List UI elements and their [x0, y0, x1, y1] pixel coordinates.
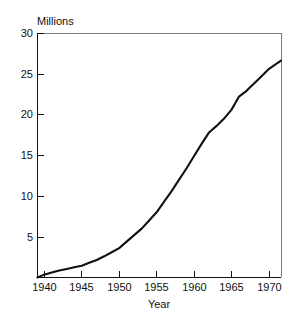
x-tick-label-1950: 1950 — [107, 281, 131, 293]
x-tick-label-1955: 1955 — [144, 281, 168, 293]
x-tick-label-1965: 1965 — [219, 281, 243, 293]
y-axis-title: Millions — [37, 15, 74, 27]
x-tick-label-1960: 1960 — [182, 281, 206, 293]
y-tick-label-5: 5 — [27, 231, 33, 243]
y-tick-label-30: 30 — [21, 27, 33, 39]
x-tick-label-1945: 1945 — [69, 281, 93, 293]
x-tick-label-1970: 1970 — [257, 281, 281, 293]
x-axis-title: Year — [148, 298, 171, 310]
y-tick-label-15: 15 — [21, 149, 33, 161]
x-tick-label-1940: 1940 — [32, 281, 56, 293]
y-tick-label-25: 25 — [21, 68, 33, 80]
line-chart-figure: 30 25 20 15 10 5 1940 1945 1950 1955 196… — [0, 0, 297, 322]
chart-canvas: 30 25 20 15 10 5 1940 1945 1950 1955 196… — [0, 0, 297, 322]
y-tick-label-10: 10 — [21, 190, 33, 202]
y-tick-label-20: 20 — [21, 108, 33, 120]
